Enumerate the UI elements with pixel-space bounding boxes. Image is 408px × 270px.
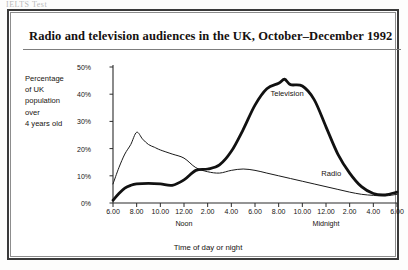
x-anchor-label-noon: Noon bbox=[175, 219, 192, 228]
y-tick-label: 30% bbox=[73, 118, 91, 125]
y-tick-label: 10% bbox=[73, 172, 91, 179]
x-tick-label: 2.00 bbox=[201, 208, 215, 215]
figure-title: Radio and television audiences in the UK… bbox=[29, 29, 389, 44]
x-axis-title: Time of day or night bbox=[9, 243, 407, 252]
x-tick-label: 6.00 bbox=[106, 208, 120, 215]
page-top-sliver-text: IELTS Test bbox=[6, 0, 126, 7]
x-tick-label: 8.00 bbox=[272, 208, 286, 215]
y-tick-label: 50% bbox=[73, 64, 91, 71]
x-tick-label: 12.00 bbox=[317, 208, 335, 215]
x-tick-label: 8.00 bbox=[130, 208, 144, 215]
y-axis-label-line-1: Percentage bbox=[25, 73, 95, 84]
x-tick-label: 2.00 bbox=[343, 208, 357, 215]
y-tick-label: 20% bbox=[73, 145, 91, 152]
series-line-radio bbox=[113, 132, 397, 196]
x-tick-label: 6.00 bbox=[390, 208, 404, 215]
x-tick-label: 6.00 bbox=[248, 208, 262, 215]
series-label-radio: Radio bbox=[321, 169, 341, 178]
series-label-television: Television bbox=[270, 89, 303, 98]
y-axis-label-line-4: over bbox=[25, 107, 95, 118]
chart-svg bbox=[93, 63, 399, 219]
x-tick-label: 4.00 bbox=[225, 208, 239, 215]
x-anchor-label-midnight: Midnight bbox=[312, 219, 339, 228]
x-tick-label: 12.00 bbox=[175, 208, 193, 215]
plot-area: 0%10%20%30%40%50%6.008.0010.0012.002.004… bbox=[93, 63, 399, 219]
figure-frame: Radio and television audiences in the UK… bbox=[7, 9, 399, 260]
x-tick-label: 10.00 bbox=[294, 208, 312, 215]
chart-page: IELTS Test Radio and television audience… bbox=[0, 0, 408, 270]
series-line-television bbox=[113, 79, 397, 200]
y-tick-label: 40% bbox=[73, 91, 91, 98]
x-tick-label: 10.00 bbox=[152, 208, 170, 215]
title-divider bbox=[23, 49, 401, 50]
y-tick-label: 0% bbox=[73, 200, 91, 207]
x-tick-label: 4.00 bbox=[367, 208, 381, 215]
